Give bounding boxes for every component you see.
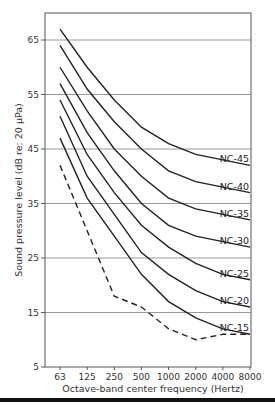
y-tick-label: 55 <box>28 90 39 100</box>
y-axis-label: Sound pressure level (dB re: 20 μPa) <box>13 103 24 277</box>
y-tick-label: 45 <box>28 144 39 154</box>
x-tick-label: 1000 <box>157 372 180 382</box>
curve-label-nc-15: NC-15 <box>220 322 249 333</box>
series-line-nc-30 <box>60 84 250 248</box>
curve-label-nc-40: NC-40 <box>220 181 249 192</box>
x-tick-label: 63 <box>54 372 65 382</box>
bottom-rule <box>0 398 275 402</box>
curve-label-nc-45: NC-45 <box>220 153 249 164</box>
x-tick-label: 125 <box>79 372 96 382</box>
y-tick-label: 25 <box>28 253 39 263</box>
y-axis-ticks: 5152535455565 <box>28 35 45 372</box>
series-line-nc-45 <box>60 29 250 165</box>
x-tick-label: 8000 <box>239 372 262 382</box>
x-axis-label: Octave-band center frequency (Hertz) <box>62 383 243 394</box>
curve-label-nc-35: NC-35 <box>220 208 249 219</box>
y-tick-label: 65 <box>28 35 39 45</box>
curve-label-nc-20: NC-20 <box>220 295 249 306</box>
y-tick-label: 35 <box>28 199 39 209</box>
y-tick-label: 15 <box>28 308 39 318</box>
x-tick-label: 2000 <box>184 372 207 382</box>
curve-label-nc-25: NC-25 <box>220 268 249 279</box>
x-axis-ticks: 631252505001000200040008000 <box>54 367 261 382</box>
x-tick-label: 4000 <box>211 372 234 382</box>
x-tick-label: 500 <box>133 372 150 382</box>
x-tick-label: 250 <box>106 372 123 382</box>
series-line-nc-40 <box>60 45 250 192</box>
curve-label-nc-30: NC-30 <box>220 235 249 246</box>
nc-curves-chart: 5152535455565 63125250500100020004000800… <box>0 0 275 410</box>
y-tick-label: 5 <box>33 362 39 372</box>
